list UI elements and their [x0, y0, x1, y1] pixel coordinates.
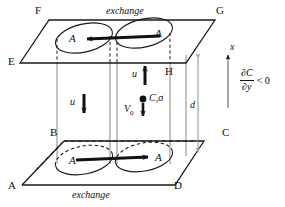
vertex-label-C: C: [222, 127, 229, 138]
vertex-label-F: F: [35, 5, 41, 16]
area-label-bottom-left: A: [69, 155, 76, 166]
particle-dot: [140, 96, 147, 103]
gap-distance-label: d: [190, 100, 195, 110]
exchange-label-bottom: exchange: [72, 190, 110, 200]
gradient-denominator: ∂y: [241, 82, 252, 93]
gradient-numerator: ∂C: [240, 68, 254, 79]
figure-canvas: F G E H B C A D exchange exchange A A A …: [0, 0, 285, 207]
vertex-label-A: A: [8, 180, 16, 191]
vertex-label-H: H: [165, 66, 173, 77]
gradient-comparison: < 0: [257, 75, 270, 86]
settling-velocity-label: V0: [124, 104, 134, 117]
concentration-label: C,σ: [149, 93, 163, 103]
diagram-svg: [0, 0, 285, 207]
axis-label-x: x: [230, 42, 234, 52]
cell-ellipse-top-right: [113, 13, 176, 53]
vertex-label-G: G: [216, 5, 224, 16]
top-exchange-arrow: [87, 36, 160, 39]
area-label-bottom-right: A: [155, 152, 162, 163]
cell-ellipse-bottom-left-back: [53, 141, 113, 166]
vertex-label-B: B: [50, 127, 57, 138]
vertex-label-D: D: [174, 180, 182, 191]
area-label-top-left: A: [69, 33, 76, 44]
settling-velocity-subscript: 0: [130, 109, 134, 117]
cell-ellipse-bottom-right-front: [116, 151, 176, 176]
velocity-label-right: u: [132, 69, 137, 79]
gradient-fraction: ∂C ∂y: [240, 68, 254, 92]
bottom-exchange-arrow: [76, 157, 148, 160]
concentration-gradient-expression: ∂C ∂y < 0: [240, 68, 270, 92]
velocity-label-left: u: [70, 97, 75, 107]
exchange-label-top: exchange: [106, 6, 144, 16]
area-label-top-right: A: [155, 28, 162, 39]
vertex-label-E: E: [8, 56, 15, 67]
